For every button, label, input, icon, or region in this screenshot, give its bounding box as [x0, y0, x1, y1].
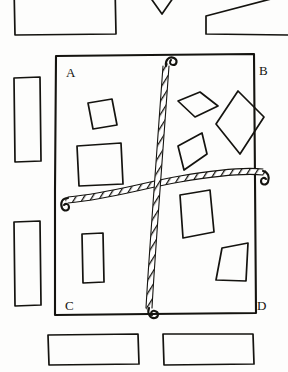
- irregular-quad-upper: [180, 190, 214, 238]
- top-right-trapezoid: [206, 0, 288, 35]
- corner-label-b: B: [259, 63, 268, 78]
- inside-shape-group: [77, 91, 264, 283]
- bottom-rectangle-left: [48, 334, 139, 365]
- top-chevron: [145, 0, 180, 14]
- tall-rectangle-inner: [82, 233, 104, 283]
- small-tilted-square: [88, 99, 117, 129]
- top-large-rectangle: [14, 0, 116, 35]
- bottom-rectangle-right: [163, 334, 254, 365]
- slanted-rhombus: [178, 133, 207, 170]
- wide-diamond: [178, 92, 218, 117]
- corner-label-c: C: [65, 298, 74, 313]
- diagram-canvas: A B C D: [0, 0, 288, 372]
- tall-diamond: [216, 91, 264, 154]
- left-tall-rectangle-upper: [14, 77, 41, 162]
- left-tall-rectangle-lower: [14, 221, 41, 306]
- horizontal-rope: [61, 168, 269, 210]
- corner-label-d: D: [257, 298, 266, 313]
- sketch-svg: A B C D: [0, 0, 288, 372]
- corner-label-a: A: [66, 65, 76, 80]
- irregular-quad-lower: [216, 243, 248, 281]
- large-square: [77, 143, 123, 186]
